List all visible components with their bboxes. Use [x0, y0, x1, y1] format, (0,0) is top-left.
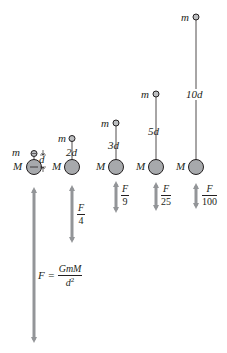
column-10d [189, 14, 204, 206]
small-mass-sphere [153, 91, 159, 97]
large-mass-label: M [136, 161, 145, 172]
gravity-formula: F = GmM d2 [38, 264, 82, 288]
force-fraction: F 9 [121, 184, 129, 207]
large-mass-sphere [189, 160, 204, 175]
small-mass-label: m [141, 89, 149, 100]
formula-lhs: F = [38, 269, 55, 281]
large-mass-label: M [52, 161, 61, 172]
gravity-diagram: m M d F = GmM d2 m 2d M F 4 m 3d M F 9 m… [0, 0, 227, 353]
distance-label: 3d [108, 140, 119, 151]
column-d [27, 150, 47, 340]
formula-fraction: GmM d2 [58, 264, 83, 288]
small-mass-sphere [69, 136, 75, 142]
distance-label: 5d [148, 126, 159, 137]
large-mass-label: M [96, 161, 105, 172]
small-mass-label: m [101, 118, 109, 129]
large-mass-label: M [176, 161, 185, 172]
small-mass-sphere [113, 120, 119, 126]
small-mass-sphere [193, 14, 199, 20]
small-mass-label: m [12, 147, 20, 158]
large-mass-sphere [65, 160, 80, 175]
distance-label: d [39, 154, 45, 165]
distance-label: 2d [66, 147, 77, 158]
force-fraction: F 25 [161, 184, 171, 207]
force-fraction: F 4 [77, 203, 85, 226]
formula-denominator: d2 [58, 277, 83, 288]
small-mass-label: m [58, 133, 66, 144]
small-mass-label: m [181, 12, 189, 23]
force-fraction: F 100 [202, 184, 217, 207]
large-mass-sphere [149, 160, 164, 175]
diagram-graphics [0, 0, 227, 353]
formula-numerator: GmM [58, 264, 83, 274]
large-mass-label: M [13, 161, 22, 172]
distance-label: 10d [186, 89, 203, 100]
large-mass-sphere [109, 160, 124, 175]
